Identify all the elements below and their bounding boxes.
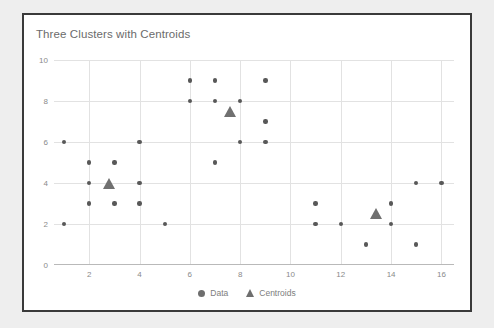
gridline-x-6 <box>190 60 191 265</box>
scatter-plot-area: 0246810 246810121416 <box>54 60 454 265</box>
x-tick-6: 6 <box>188 270 192 279</box>
centroid-marker <box>370 208 382 219</box>
circle-marker-icon <box>198 290 205 297</box>
triangle-marker-icon <box>246 289 254 297</box>
gridline-y-2 <box>54 224 454 225</box>
chart-card: Three Clusters with Centroids 0246810 24… <box>24 15 470 310</box>
y-tick-8: 8 <box>44 97 48 106</box>
x-tick-4: 4 <box>137 270 141 279</box>
legend-label-centroids: Centroids <box>259 288 295 298</box>
data-point <box>87 201 91 205</box>
data-point <box>389 201 393 205</box>
data-point <box>137 181 141 185</box>
data-point <box>263 140 267 144</box>
y-tick-4: 4 <box>44 179 48 188</box>
x-tick-8: 8 <box>238 270 242 279</box>
gridline-x-14 <box>391 60 392 265</box>
data-point <box>213 78 217 82</box>
legend-label-data: Data <box>210 288 228 298</box>
data-point <box>112 201 116 205</box>
gridline-x-4 <box>140 60 141 265</box>
x-tick-12: 12 <box>336 270 345 279</box>
gridline-x-16 <box>441 60 442 265</box>
data-point <box>188 78 192 82</box>
y-tick-10: 10 <box>39 56 48 65</box>
y-tick-0: 0 <box>44 261 48 270</box>
data-point <box>213 160 217 164</box>
gridline-y-6 <box>54 142 454 143</box>
data-point <box>414 242 418 246</box>
data-point <box>62 222 66 226</box>
gridline-y-8 <box>54 101 454 102</box>
x-tick-2: 2 <box>87 270 91 279</box>
legend-item-centroids: Centroids <box>246 288 295 298</box>
data-point <box>414 181 418 185</box>
data-point <box>112 160 116 164</box>
data-point <box>62 140 66 144</box>
data-point <box>137 140 141 144</box>
chart-title: Three Clusters with Centroids <box>36 28 190 40</box>
chart-frame: Three Clusters with Centroids 0246810 24… <box>22 13 472 312</box>
x-tick-16: 16 <box>437 270 446 279</box>
y-tick-2: 2 <box>44 220 48 229</box>
chart-legend: Data Centroids <box>24 288 470 298</box>
centroid-marker <box>103 178 115 189</box>
data-point <box>87 181 91 185</box>
x-axis-line <box>54 264 454 266</box>
centroid-marker <box>224 106 236 117</box>
data-point <box>163 222 167 226</box>
gridline-x-12 <box>341 60 342 265</box>
gridline-x-8 <box>240 60 241 265</box>
data-point <box>238 140 242 144</box>
x-tick-10: 10 <box>286 270 295 279</box>
data-point <box>439 181 443 185</box>
data-point <box>87 160 91 164</box>
data-point <box>137 201 141 205</box>
data-point <box>389 222 393 226</box>
gridline-x-10 <box>290 60 291 265</box>
data-point <box>263 119 267 123</box>
x-tick-14: 14 <box>387 270 396 279</box>
data-point <box>364 242 368 246</box>
gridline-y-10 <box>54 60 454 61</box>
y-tick-6: 6 <box>44 138 48 147</box>
data-point <box>313 222 317 226</box>
data-point <box>238 99 242 103</box>
data-point <box>313 201 317 205</box>
data-point <box>188 99 192 103</box>
data-point <box>339 222 343 226</box>
legend-item-data: Data <box>198 288 228 298</box>
data-point <box>213 99 217 103</box>
data-point <box>263 78 267 82</box>
